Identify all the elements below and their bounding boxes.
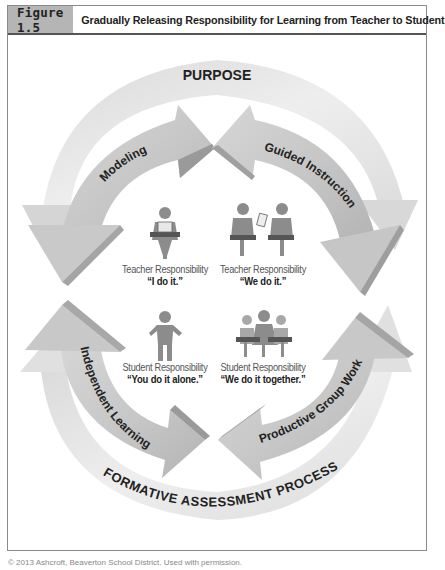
caption-we-do-it: Teacher Responsibility “We do it.” [198, 264, 328, 287]
caption-role: Student Responsibility [203, 362, 323, 373]
copyright-footer: © 2013 Ashcroft, Beaverton School Distri… [8, 558, 242, 570]
student-group-icon [236, 310, 292, 357]
student-standing-icon [149, 311, 182, 361]
teacher-student-sharing-icon [230, 203, 294, 256]
caption-we-do-it-together: Student Responsibility “We do it togethe… [198, 362, 328, 385]
purpose-label: PURPOSE [183, 67, 251, 83]
teacher-reading-icon [150, 207, 180, 259]
caption-quote: “We do it together.” [205, 373, 322, 385]
caption-quote: “We do it.” [205, 275, 322, 287]
caption-role: Teacher Responsibility [203, 264, 323, 275]
